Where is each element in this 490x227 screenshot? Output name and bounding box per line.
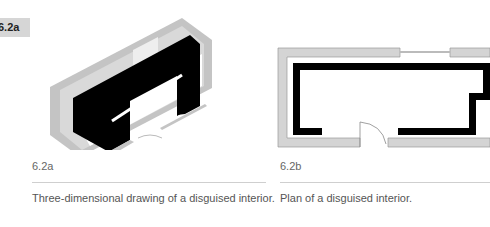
figure-3d-drawing bbox=[30, 10, 250, 150]
figure-label-badge: 6.2a bbox=[0, 18, 30, 37]
caption-divider-b bbox=[280, 182, 490, 183]
figure-caption-b: Plan of a disguised interior. bbox=[280, 192, 412, 204]
figure-plan bbox=[270, 40, 490, 160]
figure-caption-a: Three-dimensional drawing of a disguised… bbox=[32, 192, 275, 204]
figure-number-a: 6.2a bbox=[32, 160, 53, 172]
figure-number-b: 6.2b bbox=[280, 160, 301, 172]
3d-interior-illustration bbox=[30, 10, 250, 150]
plan-illustration bbox=[270, 40, 490, 160]
caption-divider-a bbox=[32, 182, 266, 183]
